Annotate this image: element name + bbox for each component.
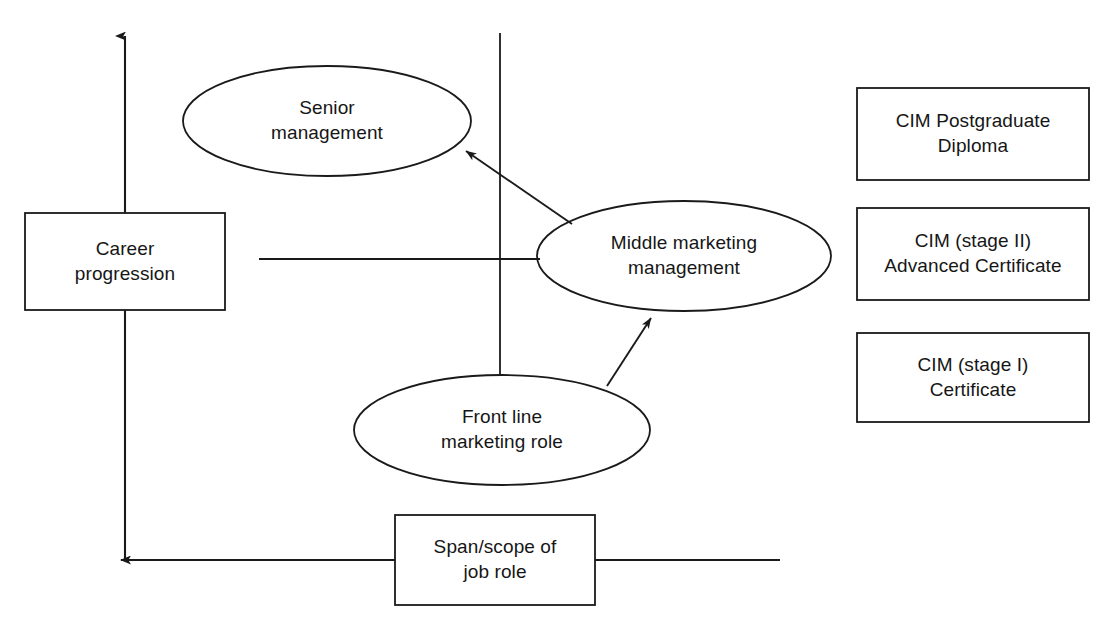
middle-marketing-management-ellipse[interactable] xyxy=(537,201,831,311)
career-progression-diagram: Senior management Middle marketing manag… xyxy=(0,0,1114,636)
arrow-front-line-to-middle xyxy=(607,318,651,386)
arrow-middle-to-senior xyxy=(466,151,572,224)
career-progression-box[interactable] xyxy=(25,213,225,310)
cim-postgraduate-diploma-box[interactable] xyxy=(857,88,1089,180)
senior-management-ellipse[interactable] xyxy=(183,66,471,176)
front-line-marketing-role-ellipse[interactable] xyxy=(354,375,650,485)
span-scope-of-job-role-box[interactable] xyxy=(395,515,595,605)
cim-stage-ii-advanced-certificate-box[interactable] xyxy=(857,208,1089,300)
diagram-canvas xyxy=(0,0,1114,636)
cim-stage-i-certificate-box[interactable] xyxy=(857,333,1089,422)
